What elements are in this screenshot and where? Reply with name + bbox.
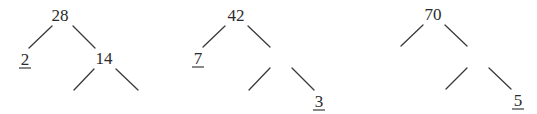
tree1-prime-factor-node: 2 [21, 50, 30, 69]
edge-blank-to-left-blank [446, 68, 467, 89]
factor-tree-28: 28 2 14 [19, 6, 138, 90]
edge-70-to-right-blank [445, 25, 467, 46]
factor-trees-diagram: 28 2 14 42 7 3 70 5 [0, 0, 537, 114]
tree1-composite-node: 14 [96, 49, 114, 68]
edge-42-to-blank [248, 26, 270, 47]
tree2-leaf-prime-node: 3 [315, 92, 324, 111]
edge-blank-to-left-blank [249, 68, 270, 90]
tree3-leaf-prime-node: 5 [514, 91, 523, 110]
edge-42-to-7 [203, 26, 225, 47]
factor-trees-svg: 28 2 14 42 7 3 70 5 [0, 0, 537, 114]
edge-14-to-left-blank [74, 69, 94, 90]
factor-tree-70: 70 5 [401, 5, 524, 110]
tree3-root-node: 70 [425, 5, 442, 24]
edge-28-to-14 [73, 26, 95, 48]
edge-blank-to-5 [489, 68, 511, 89]
tree2-prime-factor-node: 7 [194, 49, 203, 68]
factor-tree-42: 42 7 3 [192, 6, 325, 111]
edge-28-to-2 [29, 26, 52, 48]
tree2-root-node: 42 [228, 6, 245, 25]
edge-14-to-right-blank [116, 69, 138, 90]
edge-blank-to-3 [292, 68, 314, 90]
tree1-root-node: 28 [52, 6, 69, 25]
edge-70-to-left-blank [401, 25, 423, 46]
